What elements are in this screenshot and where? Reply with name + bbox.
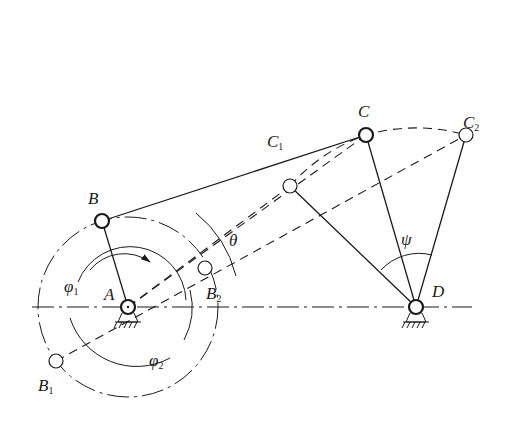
label-b2: B2: [206, 285, 221, 304]
rocker-c1d: [290, 186, 416, 307]
joint-b2: [198, 261, 212, 275]
label-phi1: φ1: [64, 278, 78, 297]
label-phi2: φ2: [149, 352, 163, 371]
psi-arc: [381, 253, 432, 270]
joint-c: [359, 128, 373, 142]
ground-support-a: [114, 313, 141, 328]
ground-support-d: [402, 313, 429, 328]
joint-d: [409, 300, 423, 314]
joint-c1: [283, 179, 297, 193]
extreme-line-ac1: [128, 135, 366, 307]
label-b: B: [88, 190, 98, 207]
phi2-arc-upper: [184, 290, 192, 340]
joint-a-center: [127, 306, 129, 308]
label-psi: ψ: [401, 231, 412, 248]
label-c2: C2: [463, 114, 479, 133]
label-theta: θ: [229, 232, 237, 249]
linkage-drawing: [0, 0, 513, 432]
joint-b: [95, 214, 109, 228]
label-c: C: [358, 103, 369, 120]
label-b1: B1: [38, 377, 53, 396]
label-a: A: [104, 286, 114, 303]
coupler-bc: [102, 135, 366, 221]
linkage-diagram: B A B1 B2 C C1 C2 D φ1 φ2 θ ψ: [0, 0, 513, 432]
joint-b1: [49, 354, 63, 368]
label-c1: C1: [267, 133, 283, 152]
rocker-cd: [366, 135, 416, 307]
label-d: D: [432, 283, 444, 300]
